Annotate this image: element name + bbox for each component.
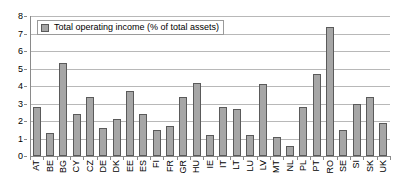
bar-PT [313, 74, 321, 156]
bar-slot [323, 16, 336, 156]
bar-MT [273, 137, 281, 156]
bar-slot [83, 16, 96, 156]
x-tick-label-ES: ES [139, 160, 148, 172]
bar-SI [353, 104, 361, 157]
x-tick-label-DK: DK [112, 160, 121, 173]
bar-slot [257, 16, 270, 156]
bar-SE [339, 130, 347, 156]
bar-slot [110, 16, 123, 156]
bar-slot [377, 16, 390, 156]
y-tick-2 [24, 121, 27, 122]
bar-slot [350, 16, 363, 156]
bar-slot [283, 16, 296, 156]
x-tick-label-IE: IE [206, 160, 215, 169]
bar-EE [126, 91, 134, 156]
bar-slot [230, 16, 243, 156]
x-tick-label-BG: BG [59, 160, 68, 173]
legend-label: Total operating income (% of total asset… [54, 23, 219, 32]
y-tick-label-7: 7 [18, 29, 23, 38]
chart-legend: Total operating income (% of total asset… [37, 20, 224, 35]
bar-slot [177, 16, 190, 156]
bar-slot [43, 16, 56, 156]
y-tick-label-5: 5 [18, 64, 23, 73]
bar-AT [33, 107, 41, 156]
x-tick-label-IT: IT [219, 160, 228, 168]
x-tick-label-FI: FI [152, 160, 161, 168]
x-tick-label-CZ: CZ [86, 160, 95, 172]
y-tick-3 [24, 104, 27, 105]
bar-series [30, 16, 390, 156]
bar-slot [137, 16, 150, 156]
x-axis-labels: ATBEBGCYCZDEDKEEESFIFRGRHUIEITLTLULVMTNL… [30, 160, 390, 194]
bar-PL [299, 107, 307, 156]
bar-LU [246, 135, 254, 156]
y-tick-0 [24, 156, 27, 157]
bar-slot [243, 16, 256, 156]
y-axis: 012345678 [0, 0, 30, 196]
x-tick-label-NL: NL [286, 160, 295, 172]
bar-slot [363, 16, 376, 156]
bar-BG [59, 63, 67, 156]
x-tick-label-MT: MT [272, 160, 281, 173]
x-tick-label-CY: CY [72, 160, 81, 173]
x-tick-label-AT: AT [32, 160, 41, 171]
y-tick-label-4: 4 [18, 82, 23, 91]
bar-IE [206, 135, 214, 156]
y-tick-label-3: 3 [18, 99, 23, 108]
x-tick [390, 156, 391, 160]
y-tick-7 [24, 34, 27, 35]
x-tick-label-FR: FR [166, 160, 175, 172]
bar-FI [153, 130, 161, 156]
bar-RO [326, 27, 334, 157]
x-tick-label-LV: LV [259, 160, 268, 170]
bar-slot [150, 16, 163, 156]
bar-CY [73, 114, 81, 156]
x-tick-label-RO: RO [326, 160, 335, 174]
bar-slot [270, 16, 283, 156]
bar-ES [139, 114, 147, 156]
bar-FR [166, 126, 174, 156]
x-tick-label-UK: UK [379, 160, 388, 173]
y-tick-label-2: 2 [18, 117, 23, 126]
bar-chart: 012345678 ATBEBGCYCZDEDKEEESFIFRGRHUIEIT… [0, 0, 400, 196]
y-tick-4 [24, 86, 27, 87]
legend-swatch-icon [41, 24, 49, 32]
bar-BE [46, 133, 54, 156]
bar-DE [99, 128, 107, 156]
x-tick-label-EE: EE [126, 160, 135, 172]
y-tick-6 [24, 51, 27, 52]
y-tick-label-8: 8 [18, 12, 23, 21]
bar-slot [30, 16, 43, 156]
bar-slot [57, 16, 70, 156]
bar-UK [379, 123, 387, 156]
bar-LT [233, 109, 241, 156]
x-tick-label-LU: LU [246, 160, 255, 172]
x-tick-label-GR: GR [179, 160, 188, 174]
bar-NL [286, 146, 294, 157]
y-tick-1 [24, 139, 27, 140]
bar-slot [123, 16, 136, 156]
bar-slot [97, 16, 110, 156]
y-tick-label-1: 1 [18, 134, 23, 143]
x-tick-label-DE: DE [99, 160, 108, 173]
x-tick-label-BE: BE [46, 160, 55, 172]
bar-IT [219, 107, 227, 156]
bar-slot [310, 16, 323, 156]
bar-CZ [86, 97, 94, 157]
bar-slot [190, 16, 203, 156]
bar-slot [297, 16, 310, 156]
bar-slot [163, 16, 176, 156]
bar-slot [337, 16, 350, 156]
x-tick-label-PL: PL [299, 160, 308, 171]
bar-SK [366, 97, 374, 157]
x-tick-label-HU: HU [192, 160, 201, 173]
x-tick-label-PT: PT [312, 160, 321, 172]
bar-slot [217, 16, 230, 156]
x-tick-label-SI: SI [352, 160, 361, 169]
x-tick-label-SK: SK [366, 160, 375, 172]
bar-slot [70, 16, 83, 156]
y-tick-label-0: 0 [18, 152, 23, 161]
x-tick-label-SE: SE [339, 160, 348, 172]
y-tick-8 [24, 16, 27, 17]
y-tick-label-6: 6 [18, 47, 23, 56]
